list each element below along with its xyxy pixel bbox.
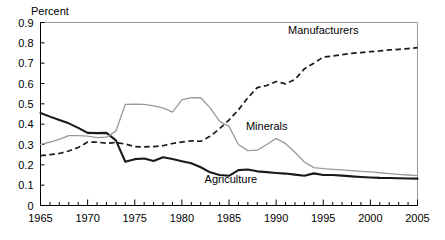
x-tick-label: 1965 [28, 212, 52, 224]
x-tick-label: 1970 [75, 212, 99, 224]
percent-line-chart: 0.90.80.70.60.50.40.30.20.10 19651970197… [0, 0, 445, 240]
x-axis-ticks [41, 200, 418, 206]
series-label-manufacturers: Manufacturers [288, 24, 359, 36]
x-axis-tick-labels: 196519701975198019851990199520002005 [28, 212, 429, 224]
x-tick-label: 1990 [264, 212, 288, 224]
y-axis-tick-labels: 0.90.80.70.60.50.40.30.20.10 [18, 17, 33, 212]
data-series-group [41, 48, 418, 179]
y-tick-label: 0.3 [18, 139, 33, 151]
y-tick-label: 0.8 [18, 37, 33, 49]
x-tick-label: 2000 [358, 212, 382, 224]
series-line-manufacturers [41, 48, 418, 156]
x-tick-label: 1975 [123, 212, 147, 224]
y-axis-title: Percent [31, 5, 69, 17]
chart-figure: 0.90.80.70.60.50.40.30.20.10 19651970197… [0, 0, 445, 240]
y-tick-label: 0.4 [18, 118, 33, 130]
y-tick-label: 0.2 [18, 159, 33, 171]
x-tick-label: 1995 [311, 212, 335, 224]
y-tick-label: 0.6 [18, 78, 33, 90]
x-tick-label: 1985 [217, 212, 241, 224]
series-label-agriculture: Agriculture [205, 173, 258, 185]
y-tick-label: 0 [27, 200, 33, 212]
y-tick-label: 0.9 [18, 17, 33, 29]
series-line-minerals [41, 98, 418, 176]
series-label-minerals: Minerals [246, 120, 288, 132]
y-tick-label: 0.1 [18, 179, 33, 191]
y-tick-label: 0.7 [18, 57, 33, 69]
series-line-agriculture [41, 113, 418, 179]
x-tick-label: 1980 [170, 212, 194, 224]
y-tick-label: 0.5 [18, 98, 33, 110]
x-tick-label: 2005 [405, 212, 429, 224]
series-annotations: AgricultureMineralsManufacturers [205, 24, 359, 185]
